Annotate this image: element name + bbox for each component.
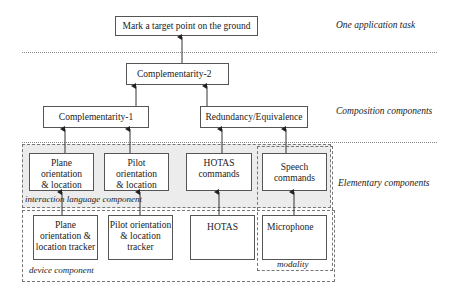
- arrows-layer: [0, 0, 457, 298]
